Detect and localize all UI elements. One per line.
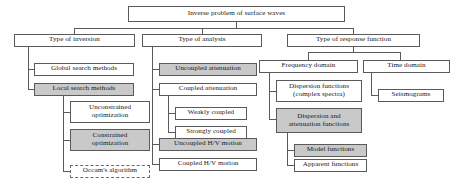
node-seismograms-label: Seismograms — [392, 91, 431, 99]
connector-local-to-occam — [63, 171, 70, 172]
connector-response-to-time — [400, 52, 401, 60]
node-type-of-response-function-label: Type of response function — [316, 36, 391, 44]
connector-coupledatt-to-strongly — [168, 132, 175, 133]
node-apparent-functions-label: Apparent functions — [303, 161, 358, 169]
connector-dispatt-stem — [287, 133, 288, 144]
connector-time-to-seismograms — [371, 95, 378, 96]
node-local-search-methods-label: Local search methods — [53, 85, 116, 93]
node-coupled-hv-motion[interactable]: Coupled H/V motion — [159, 158, 257, 171]
connector-analysis-to-coupled-hv — [152, 164, 159, 165]
connector-analysis-to-uncoupled-hv — [152, 144, 159, 145]
node-frequency-domain-label: Frequency domain — [282, 62, 336, 70]
node-coupled-hv-motion-label: Coupled H/V motion — [178, 160, 239, 168]
connector-analysis-stem — [152, 46, 153, 66]
node-type-of-analysis[interactable]: Type of analysis — [142, 34, 262, 47]
node-frequency-domain[interactable]: Frequency domain — [259, 60, 358, 73]
connector-local-spine — [63, 106, 64, 172]
connector-dispatt-spine — [287, 144, 288, 166]
node-type-of-inversion[interactable]: Type of inversion — [14, 34, 135, 47]
node-dispersion-and-attenuation-functions-label: Dispersion and attenuation functions — [289, 113, 350, 128]
node-uncoupled-hv-motion-label: Uncoupled H/V motion — [174, 140, 242, 148]
node-root[interactable]: Inverse problem of surface waves — [128, 6, 345, 22]
connector-analysis-to-uncoupled-att — [152, 69, 159, 70]
connector-dispatt-to-model — [287, 150, 294, 151]
connector-freq-stem — [269, 72, 270, 80]
connector-freq-spine — [269, 80, 270, 120]
node-uncoupled-hv-motion[interactable]: Uncoupled H/V motion — [159, 138, 257, 151]
node-coupled-attenuation[interactable]: Coupled attenuation — [159, 83, 257, 96]
connector-freq-to-dispersion-att — [269, 119, 276, 120]
connector-inversion-stem — [28, 46, 29, 66]
node-unconstrained-optimization-label: Unconstrained optimization — [89, 104, 131, 119]
node-apparent-functions[interactable]: Apparent functions — [294, 159, 367, 172]
node-global-search-methods[interactable]: Global search methods — [34, 63, 134, 76]
node-weakly-coupled[interactable]: Weakly coupled — [175, 107, 247, 120]
node-constrained-optimization-label: Constrained optimization — [92, 132, 128, 147]
node-constrained-optimization[interactable]: Constrained optimization — [70, 129, 150, 151]
node-dispersion-functions[interactable]: Dispersion functions (complex spectra) — [276, 80, 362, 102]
node-uncoupled-attenuation-label: Uncoupled attenuation — [175, 65, 240, 73]
connector-analysis-to-coupled-att — [152, 89, 159, 90]
connector-analysis-spine — [152, 66, 153, 164]
node-strongly-coupled-label: Strongly coupled — [186, 128, 235, 136]
node-uncoupled-attenuation[interactable]: Uncoupled attenuation — [159, 63, 257, 76]
node-root-label: Inverse problem of surface waves — [188, 10, 285, 18]
node-occams-algorithm[interactable]: Occam's algorithm — [70, 165, 150, 178]
node-time-domain[interactable]: Time domain — [363, 60, 450, 73]
node-weakly-coupled-label: Weakly coupled — [188, 109, 234, 117]
node-global-search-methods-label: Global search methods — [51, 65, 117, 73]
connector-local-to-constrained — [63, 140, 70, 141]
node-model-functions-label: Model functions — [307, 146, 354, 154]
node-occams-algorithm-label: Occam's algorithm — [83, 167, 137, 175]
node-coupled-attenuation-label: Coupled attenuation — [179, 85, 237, 93]
connector-coupledatt-stem — [168, 96, 169, 104]
connector-root-bus — [74, 28, 354, 29]
connector-response-to-freq — [308, 52, 309, 60]
node-unconstrained-optimization[interactable]: Unconstrained optimization — [70, 101, 150, 123]
node-seismograms[interactable]: Seismograms — [378, 89, 444, 102]
connector-coupledatt-to-weakly — [168, 113, 175, 114]
connector-freq-to-dispersion — [269, 91, 276, 92]
connector-coupledatt-spine — [168, 104, 169, 133]
node-local-search-methods[interactable]: Local search methods — [34, 83, 134, 96]
node-type-of-inversion-label: Type of inversion — [49, 36, 100, 44]
node-model-functions[interactable]: Model functions — [294, 144, 367, 157]
node-type-of-response-function[interactable]: Type of response function — [287, 34, 420, 47]
connector-dispatt-to-apparent — [287, 165, 294, 166]
connector-time-stem — [371, 72, 372, 80]
node-dispersion-and-attenuation-functions[interactable]: Dispersion and attenuation functions — [276, 108, 362, 133]
node-type-of-analysis-label: Type of analysis — [178, 36, 225, 44]
connector-response-bus — [308, 52, 400, 53]
node-time-domain-label: Time domain — [387, 62, 425, 70]
flowchart-diagram: Inverse problem of surface waves Type of… — [0, 0, 456, 187]
connector-time-spine — [371, 80, 372, 95]
connector-local-stem — [63, 96, 64, 106]
connector-local-to-unconstrained — [63, 112, 70, 113]
node-dispersion-functions-label: Dispersion functions (complex spectra) — [289, 83, 349, 98]
